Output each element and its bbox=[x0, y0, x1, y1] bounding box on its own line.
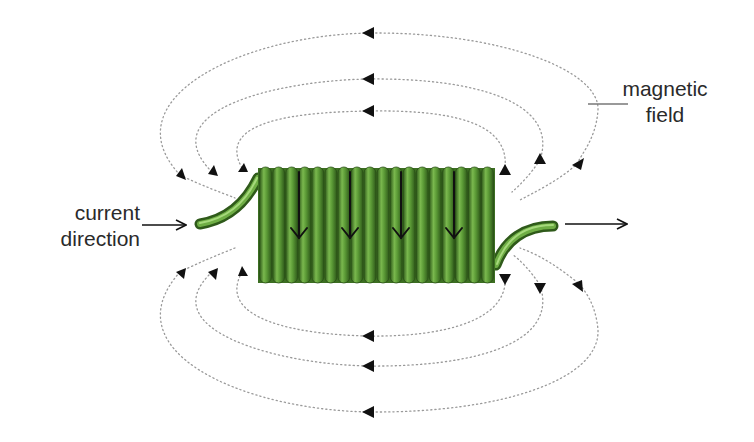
coil-loop bbox=[260, 167, 272, 283]
coil-loop bbox=[482, 167, 494, 283]
coil-loop bbox=[469, 167, 481, 283]
arrow-up-left-icon bbox=[572, 158, 584, 170]
label-line: field bbox=[620, 102, 710, 128]
current-direction-label: current direction bbox=[20, 200, 140, 252]
arrow-down-icon bbox=[534, 283, 546, 294]
field-line-top-outer bbox=[160, 33, 598, 175]
arrow-up-icon bbox=[499, 164, 511, 175]
coil-loop bbox=[273, 167, 285, 283]
arrow-down-icon bbox=[499, 274, 511, 285]
label-line: magnetic bbox=[620, 76, 710, 102]
coil-loop bbox=[338, 167, 350, 283]
arrow-down-right-icon bbox=[176, 168, 186, 180]
arrow-left-icon bbox=[362, 105, 374, 117]
arrow-up-icon bbox=[534, 153, 546, 164]
coil-loop bbox=[299, 167, 311, 283]
solenoid-coil bbox=[258, 167, 495, 283]
coil-loop bbox=[325, 167, 337, 283]
coil-loop bbox=[351, 167, 363, 283]
arrow-left-icon bbox=[362, 73, 374, 85]
label-line: direction bbox=[20, 226, 140, 252]
field-line-top-inner bbox=[237, 111, 505, 168]
arrow-left-icon bbox=[362, 330, 374, 342]
field-line-bottom-middle bbox=[196, 272, 543, 366]
coil-loop bbox=[364, 167, 376, 283]
coil-loop bbox=[286, 167, 298, 283]
coil-loop bbox=[455, 167, 467, 283]
coil-loop bbox=[442, 167, 454, 283]
arrow-left-icon bbox=[362, 27, 374, 39]
arrow-left-icon bbox=[362, 360, 374, 372]
magnetic-field-label: magnetic field bbox=[620, 76, 710, 128]
coil-loop bbox=[429, 167, 441, 283]
arrow-up-left-icon bbox=[208, 268, 218, 280]
arrow-up-left-icon bbox=[238, 266, 248, 276]
coil-loop bbox=[416, 167, 428, 283]
arrow-left-icon bbox=[362, 406, 374, 418]
field-line-bottom-outer bbox=[160, 272, 598, 412]
label-line: current bbox=[20, 200, 140, 226]
field-line-top-middle bbox=[196, 79, 543, 172]
arrow-down-right-icon bbox=[208, 165, 218, 176]
coil-loop bbox=[403, 167, 415, 283]
coil-loop bbox=[377, 167, 389, 283]
lead-in bbox=[200, 178, 258, 224]
coil-loop bbox=[312, 167, 324, 283]
arrow-up-left-icon bbox=[176, 268, 186, 279]
